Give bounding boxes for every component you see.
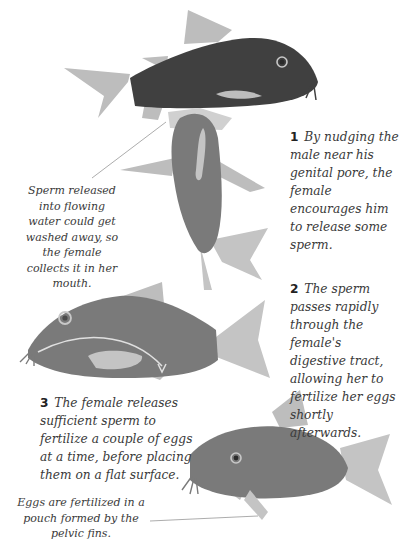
mouth-note: Sperm released into flowing water could … <box>22 183 122 292</box>
step-1-caption: 1 By nudging the male near his genital p… <box>290 128 400 254</box>
step-1-text: By nudging the male near his genital por… <box>290 130 399 252</box>
step-3-number: 3 <box>40 396 48 410</box>
step-3-caption: 3 The female releases sufficient sperm t… <box>40 394 200 484</box>
female-fish-top-view <box>120 108 268 290</box>
step-2-caption: 2 The sperm passes rapidly through the f… <box>290 280 400 442</box>
pouch-note-leader-line <box>150 516 258 521</box>
female-fish-digestive <box>20 282 270 380</box>
male-fish <box>64 10 318 120</box>
step-2-text: The sperm passes rapidly through the fem… <box>290 282 395 440</box>
step-1-number: 1 <box>290 130 298 144</box>
pouch-note: Eggs are fertilized in a pouch formed by… <box>6 495 156 542</box>
step-3-text: The female releases sufficient sperm to … <box>40 396 192 482</box>
step-2-number: 2 <box>290 282 298 296</box>
